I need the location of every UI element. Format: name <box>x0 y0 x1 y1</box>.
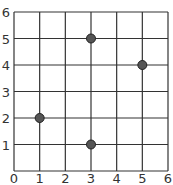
data-point <box>35 114 44 123</box>
data-point <box>87 140 96 149</box>
y-tick-label: 1 <box>2 138 10 153</box>
y-tick-label: 2 <box>2 111 10 126</box>
y-tick-label: 3 <box>2 85 10 100</box>
x-tick-label: 5 <box>138 171 146 185</box>
y-tick-label: 4 <box>2 58 10 73</box>
x-tick-label: 2 <box>61 171 69 185</box>
data-point <box>138 61 147 70</box>
x-tick-label: 1 <box>36 171 44 185</box>
data-point <box>87 34 96 43</box>
x-tick-label: 0 <box>10 171 18 185</box>
y-tick-label: 5 <box>2 32 10 47</box>
x-tick-label: 3 <box>87 171 95 185</box>
y-tick-label: 6 <box>2 5 10 20</box>
scatter-chart: 0123456123456 <box>0 0 173 185</box>
x-tick-label: 6 <box>164 171 172 185</box>
x-tick-label: 4 <box>113 171 121 185</box>
